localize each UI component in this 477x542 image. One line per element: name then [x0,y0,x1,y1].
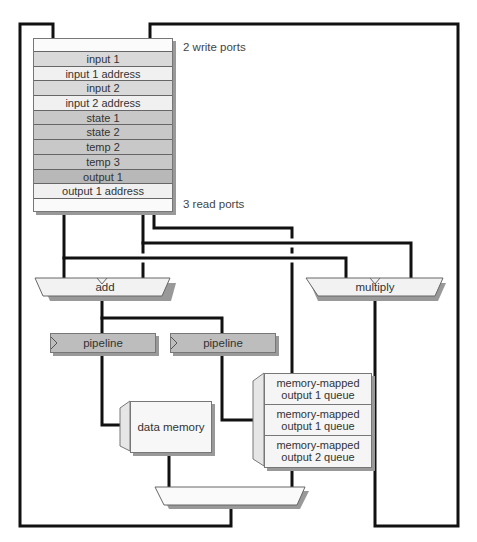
clock-triangle-icon [171,334,181,352]
write-ports-label: 2 write ports [183,41,246,53]
register-row: temp 2 [34,140,172,155]
pipeline-2: pipeline [170,333,276,353]
register-row: input 1 address [34,67,172,82]
wire-read-port-3a [154,211,292,237]
register-row: output 1 [34,170,172,185]
register-row: state 1 [34,111,172,126]
register-row: temp 3 [34,155,172,170]
data-memory-bevel [120,401,130,451]
memory-mapped-queues: memory-mapped output 1 queue memory-mapp… [264,373,372,468]
wire-read-port-1-mult [64,258,346,278]
queue-output-1a: memory-mapped output 1 queue [265,374,371,405]
multiply-label: multiply [330,281,420,293]
register-row: input 2 [34,81,172,96]
register-file: input 1 input 1 address input 2 input 2 … [33,38,173,212]
queue-output-2: memory-mapped output 2 queue [265,436,371,466]
register-file-top [34,39,172,52]
queue-label-line2: output 1 queue [265,420,371,432]
queues-bevel [253,373,264,466]
register-row: state 2 [34,125,172,140]
queue-output-1b: memory-mapped output 1 queue [265,405,371,436]
queue-label-line1: memory-mapped [265,408,371,420]
queue-label-line1: memory-mapped [265,439,371,451]
queue-label-line1: memory-mapped [265,377,371,389]
read-ports-label: 3 read ports [183,198,244,210]
register-row: output 1 address [34,184,172,199]
add-label: add [60,281,150,293]
pipeline-1: pipeline [50,333,156,353]
pipeline-2-label: pipeline [203,337,243,349]
register-row: input 2 address [34,96,172,111]
clock-triangle-icon [51,334,61,352]
register-row: input 1 [34,52,172,67]
queue-label-line2: output 2 queue [265,451,371,463]
pipeline-1-label: pipeline [83,337,123,349]
wire-read-port-2-mult [143,243,411,278]
data-memory: data memory [130,401,212,453]
wire-pipe2-queues [222,356,254,420]
output-mux [155,487,305,505]
data-memory-label: data memory [137,421,204,433]
queue-label-line2: output 1 queue [265,389,371,401]
wire-pipe1-dmem [102,356,120,425]
